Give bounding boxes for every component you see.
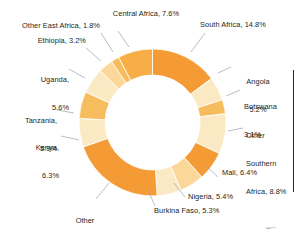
leader-line-other-west-africa [96,183,109,199]
leader-line-other-east-africa [101,33,113,52]
slice-label-other-east-africa: Other East Africa, 1.8% [0,21,100,30]
leader-line-central-africa [118,31,129,47]
slice-label-kenya-line1: Kenya, [0,143,59,152]
slice-label-south-africa: South Africa, 14.8% [200,20,300,29]
slice-label-angola-line2: 5.2% [234,105,282,114]
slice-label-other-west-africa-line1: Other [26,216,144,225]
slice-label-uganda-line1: Uganda, [0,75,69,84]
slice-label-other-west-africa: Other West Africa, 20.6% [26,198,144,237]
slice-label-angola: Angola 5.2% [234,59,282,133]
leader-line-angola [218,67,231,73]
donut-slice-group [79,49,226,196]
source-note-fragment: ▬▪▪▪ [266,225,276,230]
slice-label-kenya: Kenya, 6.3% [0,125,59,199]
slice-label-ethiopia: Ethiopia, 3.2% [0,36,86,45]
leader-line-ethiopia [86,48,101,61]
slice-label-kenya-line2: 6.3% [0,171,59,180]
donut-slice[interactable] [83,138,157,196]
leader-line-kenya [61,136,79,140]
slice-label-angola-line1: Angola [234,77,282,86]
page-edge-rule [293,70,294,192]
donut-chart: Central Africa, 7.6% South Africa, 14.8%… [0,0,302,237]
leader-line-uganda [69,69,85,78]
leader-line-south-africa [191,33,205,52]
slice-label-central-africa: Central Africa, 7.6% [86,9,206,18]
